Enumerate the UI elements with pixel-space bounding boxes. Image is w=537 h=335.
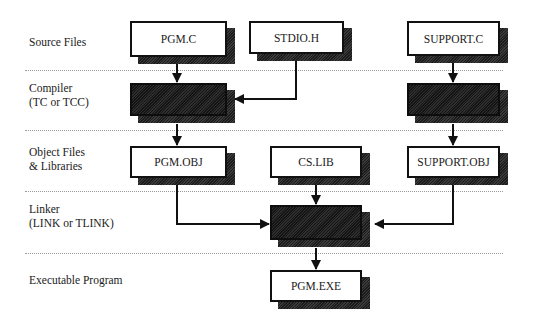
node-label: SUPPORT.C — [407, 21, 500, 56]
node-support-obj: SUPPORT.OBJ — [407, 146, 500, 178]
node-compiler-left — [130, 83, 227, 116]
node-cs-lib: CS.LIB — [270, 146, 362, 178]
node-pgm-c: PGM.C — [130, 21, 227, 57]
node-linker — [270, 205, 362, 240]
compiler-process-block — [130, 83, 227, 116]
node-label: SUPPORT.OBJ — [407, 146, 500, 178]
node-pgm-exe: PGM.EXE — [270, 270, 362, 302]
node-label: PGM.OBJ — [130, 146, 227, 178]
node-label: PGM.C — [130, 21, 227, 57]
node-support-c: SUPPORT.C — [407, 21, 500, 56]
node-label: STDIO.H — [249, 21, 344, 54]
compiler-process-block — [407, 83, 500, 116]
node-label: CS.LIB — [270, 146, 362, 178]
node-stdio-h: STDIO.H — [249, 21, 344, 54]
node-compiler-right — [407, 83, 500, 116]
node-pgm-obj: PGM.OBJ — [130, 146, 227, 178]
node-label: PGM.EXE — [270, 270, 362, 302]
linker-process-block — [270, 205, 362, 240]
